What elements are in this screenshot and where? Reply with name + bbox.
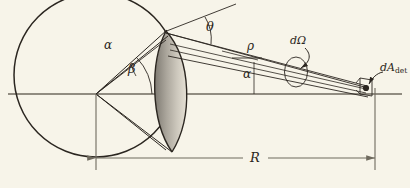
dA-det-label: dAdet (380, 62, 407, 74)
crescent-lens-shape (155, 31, 187, 152)
rho-label: ρ (247, 40, 254, 52)
scattering-geometry-figure: θ α β ρ α dΩ dAdet R (0, 0, 410, 188)
d-omega-label: dΩ (290, 35, 306, 46)
alpha-axis-label: α (243, 68, 251, 80)
diagram-canvas (0, 0, 410, 188)
theta-angle-marker (164, 4, 368, 88)
alpha-lens-label: α (104, 39, 112, 51)
dA-det-subscript: det (395, 66, 407, 75)
beta-label: β (128, 62, 136, 75)
beta-angle-arc (137, 58, 152, 94)
R-label: R (250, 151, 260, 164)
beam-cone-to-detector (166, 33, 368, 97)
d-omega-leader-arrow (301, 48, 309, 68)
theta-label: θ (206, 20, 214, 33)
dA-det-symbol: dA (380, 61, 395, 74)
